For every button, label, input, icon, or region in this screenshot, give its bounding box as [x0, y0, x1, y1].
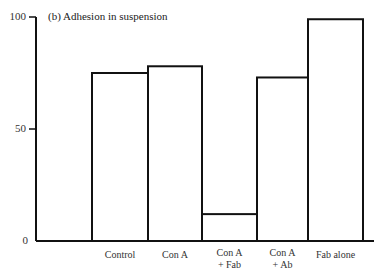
x-category-label: Con A+ Ab [257, 247, 308, 271]
bar-con-a [148, 66, 202, 241]
bar-fab-alone [308, 19, 363, 241]
y-tick-label: 100 [0, 10, 26, 22]
x-category-label: Con A [148, 249, 202, 261]
adhesion-bar-chart: (b) Adhesion in suspension 050100 Contro… [0, 0, 374, 273]
x-category-label: Control [92, 249, 148, 261]
y-tick-label: 50 [0, 122, 26, 134]
x-category-label: Con A+ Fab [202, 247, 257, 271]
plot-area [0, 0, 374, 273]
bar-control [92, 73, 148, 241]
x-category-label: Fab alone [308, 249, 363, 261]
bar-con-a-fab [202, 214, 257, 241]
bar-con-a-ab [257, 77, 308, 241]
y-tick-label: 0 [2, 234, 28, 246]
